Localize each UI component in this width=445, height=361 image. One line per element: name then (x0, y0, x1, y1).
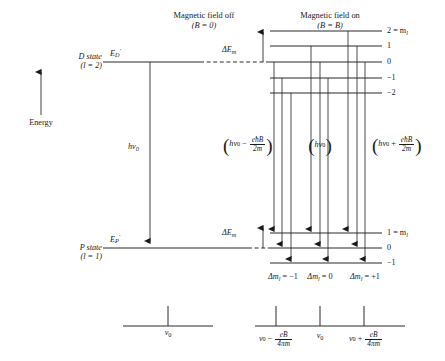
spectrum-unsplit-nu-sub: 0 (168, 331, 171, 338)
right-group-denominator: 2m (399, 145, 415, 153)
header-field-off-title: Magnetic field off (174, 11, 235, 20)
d-state-quantum: (l = 2) (81, 61, 102, 70)
spectrum-low-denominator: 4πm (275, 340, 292, 348)
p-state-energy-label: EP′ (110, 233, 120, 244)
spectrum-high-fraction: eB 4πm (365, 331, 382, 347)
selection-rule-0-symbol: Δm (268, 272, 279, 281)
selection-rule-2-symbol: Δm (350, 272, 361, 281)
delta-em-upper-symbol: ΔE (222, 45, 232, 54)
spectrum-high-operator: + (356, 334, 365, 343)
right-group-fraction: eħB 2m (399, 136, 415, 152)
spectrum-low-fraction: eB 4πm (275, 331, 292, 347)
selection-rule-plus-one: Δml = +1 (350, 272, 380, 282)
delta-em-lower-symbol: ΔE (222, 228, 232, 237)
p-state-quantum: (l = 1) (81, 252, 102, 261)
lower-ml-label-0: 0 (387, 243, 391, 252)
upper-ml-label-1: 1 (387, 41, 391, 50)
d-state-name: D state (79, 52, 102, 61)
header-field-off: Magnetic field off (B = 0) (174, 11, 235, 30)
spectrum-mid-nu-sub: 0 (320, 334, 323, 341)
spectrum-low-operator: − (266, 334, 275, 343)
d-state-energy-label: ED′ (110, 47, 121, 58)
spectrum-label-low: ν0 − eB 4πm (259, 331, 293, 347)
selection-rule-minus-one: Δml = −1 (268, 272, 298, 282)
header-field-on-condition: (B = B) (317, 21, 343, 30)
photon-energy-mid-group: ( hν0 ) (308, 140, 331, 153)
selection-rule-zero: Δml = 0 (307, 272, 332, 282)
upper-ml-label-neg2: −2 (387, 88, 396, 97)
energy-axis-label: Energy (29, 118, 53, 127)
lower-ml-sub-1: l (406, 231, 408, 238)
selection-rule-2-value: = +1 (363, 272, 380, 281)
selection-rule-1-value: = 0 (320, 272, 333, 281)
left-group-fraction: eħB 2m (250, 136, 266, 152)
delta-em-lower-label: ΔEm (222, 228, 236, 238)
p-state-label: P state (l = 1) (56, 243, 102, 262)
spectrum-label-high: ν0 + eB 4πm (349, 331, 383, 347)
d-energy-prime: ′ (119, 47, 120, 54)
delta-em-upper-subscript: m (232, 48, 236, 55)
left-group-denominator: 2m (250, 145, 266, 153)
d-state-label: D state (l = 2) (56, 52, 102, 71)
upper-ml-sub-2: l (406, 29, 408, 36)
lower-ml-label-1: 1 = ml (387, 228, 408, 238)
spectrum-high-denominator: 4πm (365, 340, 382, 348)
header-field-on-title: Magnetic field on (300, 11, 360, 20)
p-energy-prime: ′ (119, 233, 120, 240)
upper-ml-label-0: 0 (387, 57, 391, 66)
upper-ml-label-neg1: −1 (387, 73, 396, 82)
lower-ml-text-1: 1 = m (387, 228, 406, 237)
selection-rule-0-value: = −1 (281, 272, 298, 281)
zeeman-effect-diagram: Magnetic field off (B = 0) Magnetic fiel… (0, 0, 445, 361)
photon-energy-left-group: ( hν0 − eħB 2m ) (223, 136, 273, 152)
delta-em-upper-label: ΔEm (222, 45, 236, 55)
selection-rule-1-symbol: Δm (307, 272, 318, 281)
delta-em-lower-subscript: m (232, 231, 236, 238)
lower-ml-label-neg1: −1 (387, 258, 396, 267)
photon-energy-unsplit: hν0 (128, 142, 139, 152)
right-group-operator: + (389, 139, 398, 148)
photon-energy-right-group: ( hν0 + eħB 2m ) (372, 136, 422, 152)
photon-unsplit-symbol: hν (128, 142, 136, 151)
upper-ml-label-2: 2 = ml (387, 26, 408, 36)
left-group-operator: − (240, 139, 249, 148)
header-field-on: Magnetic field on (B = B) (300, 11, 360, 30)
photon-unsplit-subscript: 0 (136, 145, 139, 152)
upper-ml-text-2: 2 = m (387, 26, 406, 35)
spectrum-label-mid: ν0 (317, 331, 324, 341)
spectrum-label-unsplit: ν0 (165, 328, 172, 338)
p-state-name: P state (80, 243, 102, 252)
header-field-off-condition: (B = 0) (192, 21, 217, 30)
